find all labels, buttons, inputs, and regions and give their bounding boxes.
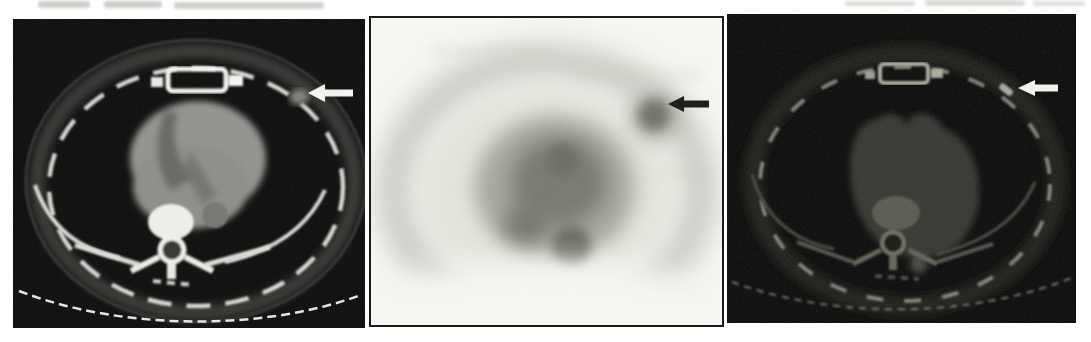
ghost-smudge [925,0,1025,6]
figure-panel-pet [369,16,724,327]
film-grain [13,19,365,328]
ghost-smudge [1033,1,1085,6]
ghost-smudge [38,1,90,8]
focal-uptake-lesion [631,92,679,140]
figure-panel-ct-dark [727,14,1076,323]
scanned-page [0,0,1091,342]
ct-contrast-image [13,19,365,328]
ghost-smudge [104,1,162,8]
figure-panel-ct-contrast [13,19,365,328]
film-grain [727,14,1076,323]
pet-image [371,18,722,325]
ghost-smudge [174,2,324,9]
ghost-smudge [845,1,915,6]
ct-dark-image [727,14,1076,323]
